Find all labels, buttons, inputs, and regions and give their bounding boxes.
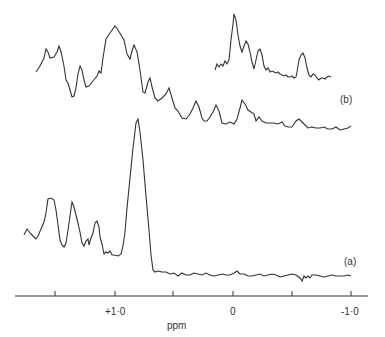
trace-b-inset [215, 14, 331, 80]
spectrum-plot [0, 0, 385, 337]
x-tick-label-plus-one: +1·0 [105, 306, 125, 317]
x-axis-ticks [55, 291, 351, 296]
trace-label-a: (a) [344, 256, 356, 267]
x-axis-label: ppm [167, 320, 186, 331]
x-tick-label-minus-one: -1·0 [341, 306, 359, 317]
trace-a [24, 119, 351, 281]
trace-label-b: (b) [340, 94, 352, 105]
trace-b [36, 26, 351, 130]
x-tick-label-zero: 0 [230, 306, 236, 317]
nmr-spectrum-figure: +1·0 0 -1·0 ppm (b) (a) [0, 0, 385, 337]
